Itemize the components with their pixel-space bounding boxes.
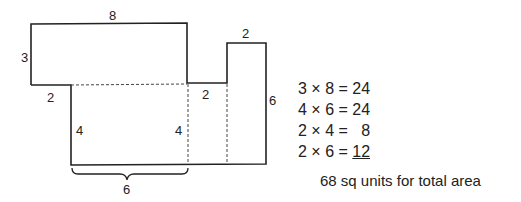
label-left-height: 3 — [21, 51, 28, 65]
calc-line-2: 4 × 6 = 24 — [298, 101, 370, 119]
calc-line-4: 2 × 6 = 12 — [298, 143, 370, 161]
calc-line-4-result: 12 — [352, 143, 370, 160]
label-middle-step: 2 — [202, 88, 209, 102]
calc-line-1: 3 × 8 = 24 — [298, 80, 370, 98]
label-top-width: 8 — [109, 9, 116, 23]
label-inner-left-height: 4 — [76, 124, 83, 138]
label-tower-height: 6 — [269, 94, 276, 108]
label-tower-width: 2 — [242, 27, 249, 41]
label-bottom-brace: 6 — [123, 183, 130, 197]
calc-line-4-expr: 2 × 6 = — [298, 143, 352, 160]
label-inner-right-height: 4 — [175, 124, 182, 138]
total-area: 68 sq units for total area — [320, 172, 481, 190]
label-left-step: 2 — [47, 91, 54, 105]
brace-icon — [72, 168, 188, 180]
calc-line-3: 2 × 4 = 8 — [298, 122, 370, 140]
